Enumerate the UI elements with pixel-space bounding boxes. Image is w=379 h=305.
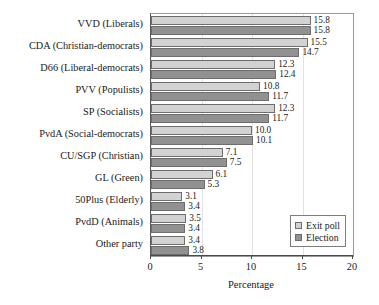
category-label: VVD (Liberals): [78, 18, 143, 29]
bar-exit: [151, 126, 252, 135]
bar-group: 12.311.7: [151, 104, 353, 126]
bar-value-label: 3.5: [189, 214, 201, 223]
bar-group: 10.010.1: [151, 126, 353, 148]
bar-value-label: 3.4: [188, 202, 200, 211]
legend-item-exit-poll: Exit poll: [295, 219, 340, 231]
x-axis-tick-label: 10: [246, 261, 256, 273]
category-axis-labels: VVD (Liberals)CDA (Christian-democrats)D…: [0, 13, 147, 255]
x-axis-tick-label: 5: [198, 261, 203, 273]
bar-elect: [151, 92, 269, 101]
bar-exit: [151, 38, 308, 47]
bar-exit: [151, 148, 223, 157]
category-label: SP (Socialists): [83, 106, 143, 117]
bar-value-label: 11.7: [272, 114, 288, 123]
legend-label-election: Election: [306, 232, 339, 243]
x-axis-tick: [201, 255, 202, 259]
category-label: 50Plus (Elderly): [75, 194, 143, 205]
category-label: D66 (Liberal-democrats): [40, 62, 143, 73]
bar-value-label: 3.4: [188, 236, 200, 245]
bar-value-label: 14.7: [302, 48, 318, 57]
bar-group: 6.15.3: [151, 170, 353, 192]
bar-value-label: 11.7: [272, 92, 288, 101]
bar-value-label: 12.3: [278, 60, 294, 69]
bar-value-label: 3.8: [192, 246, 204, 255]
bar-elect: [151, 48, 299, 57]
bar-group: 3.13.4: [151, 192, 353, 214]
bar-value-label: 12.4: [279, 70, 295, 79]
bar-elect: [151, 114, 269, 123]
bar-elect: [151, 136, 253, 145]
bar-group: 7.17.5: [151, 148, 353, 170]
x-axis-tick-label: 20: [347, 261, 357, 273]
bar-elect: [151, 180, 205, 189]
bar-exit: [151, 214, 186, 223]
legend-swatch-election-icon: [295, 234, 302, 241]
bar-group: 10.811.7: [151, 82, 353, 104]
bar-value-label: 5.3: [208, 180, 220, 189]
bar-group: 12.312.4: [151, 60, 353, 82]
x-axis-tick: [352, 255, 353, 259]
bar-exit: [151, 170, 213, 179]
bar-exit: [151, 16, 311, 25]
bar-value-label: 3.4: [188, 224, 200, 233]
category-label: CU/SGP (Christian): [60, 150, 143, 161]
bar-elect: [151, 70, 276, 79]
bar-elect: [151, 26, 311, 35]
legend-swatch-exit-poll-icon: [295, 222, 302, 229]
category-label: PvdD (Animals): [75, 216, 143, 227]
bar-elect: [151, 202, 185, 211]
bar-value-label: 10.0: [255, 126, 271, 135]
bar-value-label: 3.1: [185, 192, 197, 201]
bar-value-label: 10.8: [263, 82, 279, 91]
bar-value-label: 7.1: [226, 148, 238, 157]
legend-label-exit-poll: Exit poll: [306, 220, 340, 231]
bar-exit: [151, 192, 182, 201]
category-label: GL (Green): [95, 172, 143, 183]
bar-value-label: 7.5: [230, 158, 242, 167]
bar-group: 15.815.8: [151, 16, 353, 38]
bar-exit: [151, 104, 275, 113]
bar-group: 15.514.7: [151, 38, 353, 60]
bar-exit: [151, 82, 260, 91]
chart-legend: Exit poll Election: [290, 215, 346, 247]
category-label: PvdA (Social-democrats): [39, 128, 143, 139]
bar-elect: [151, 224, 185, 233]
legend-item-election: Election: [295, 231, 340, 243]
bar-value-label: 15.8: [314, 26, 330, 35]
bar-value-label: 6.1: [216, 170, 228, 179]
bar-exit: [151, 236, 185, 245]
bar-value-label: 10.1: [256, 136, 272, 145]
x-axis-tick: [251, 255, 252, 259]
x-axis-tick-label: 0: [147, 261, 152, 273]
bar-value-label: 15.8: [314, 16, 330, 25]
bar-value-label: 15.5: [311, 38, 327, 47]
bar-elect: [151, 158, 227, 167]
category-label: Other party: [96, 238, 143, 249]
bar-value-label: 12.3: [278, 104, 294, 113]
category-label: CDA (Christian-democrats): [29, 40, 143, 51]
bar-elect: [151, 246, 189, 255]
x-axis-tick: [150, 255, 151, 259]
bar-chart: VVD (Liberals)CDA (Christian-democrats)D…: [0, 0, 379, 305]
x-axis-tick-label: 15: [296, 261, 306, 273]
x-axis-tick: [302, 255, 303, 259]
category-label: PVV (Populists): [75, 84, 143, 95]
bar-exit: [151, 60, 275, 69]
x-axis-title: Percentage: [150, 279, 352, 290]
